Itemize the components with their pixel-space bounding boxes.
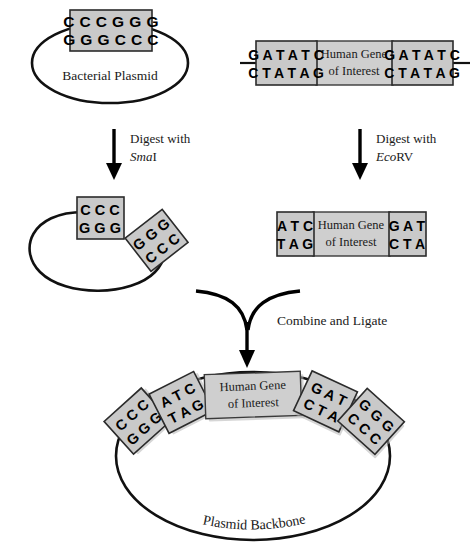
ligated-gene-label-line1: Human Gene	[219, 378, 286, 394]
left-enzyme-roman-part: I	[152, 149, 156, 164]
recombinant-plasmid-group: C C C G G G A T C T A G Human Gene of In…	[104, 370, 406, 540]
bacterial-plasmid-group: C C C G G G G G G C C C Bacterial Plasmi…	[32, 10, 188, 103]
cut-gene-right-bottom-strand: C T A	[389, 236, 425, 252]
left-enzyme-italic-part: Sma	[130, 149, 153, 164]
ligated-gene-label-line2: of Interest	[228, 395, 280, 411]
combine-ligate-label: Combine and Ligate	[277, 313, 387, 328]
ecorv-right-bottom-strand: C T A T A G	[384, 65, 460, 81]
smai-attached-top-strand: C C C	[80, 202, 120, 218]
combine-ligate-arrow-group: Combine and Ligate	[196, 291, 387, 368]
ecorv-left-bottom-strand: C T A T A G	[248, 65, 324, 81]
left-digest-label-line1: Digest with	[130, 131, 191, 146]
ligated-segment-gene-of-interest: Human Gene of Interest	[204, 371, 305, 421]
human-gene-construct-group: Human Gene of Interest G A T A T C C T A…	[240, 41, 470, 85]
smai-attached-bottom-strand: G G G	[79, 220, 121, 236]
plasmid-backbone-label-path: Plasmid Backbone	[202, 511, 307, 532]
left-digest-arrowhead-icon	[106, 163, 122, 180]
combine-arrowhead-icon	[239, 350, 255, 368]
right-enzyme-italic-part: Eco	[375, 149, 397, 164]
right-digest-arrow-group: Digest with EcoRV	[352, 129, 437, 180]
cut-plasmid-group: C C C G G G G G G C C C	[30, 197, 188, 291]
right-digest-enzyme-label: EcoRV	[375, 149, 414, 164]
cut-gene-left-bottom-strand: T A G	[277, 236, 313, 252]
combine-arrow-left-branch-icon	[196, 291, 247, 330]
cut-gene-group: Human Gene of Interest A T C T A G G A T…	[277, 212, 426, 256]
gene-label-line2: of Interest	[328, 64, 380, 78]
cut-gene-left-top-strand: A T C	[277, 218, 313, 234]
left-digest-enzyme-label: SmaI	[130, 149, 157, 164]
cut-gene-label-line2: of Interest	[325, 235, 377, 249]
cut-gene-right-top-strand: G A T	[389, 218, 426, 234]
bacterial-plasmid-label: Bacterial Plasmid	[62, 68, 158, 83]
plasmid-site-bottom-strand: G G G C C C	[63, 31, 159, 48]
left-digest-arrow-group: Digest with SmaI	[106, 129, 191, 180]
right-digest-arrowhead-icon	[352, 163, 368, 180]
gene-label-line1: Human Gene	[321, 47, 388, 61]
cloning-diagram: C C C G G G G G G C C C Bacterial Plasmi…	[0, 0, 473, 553]
plasmid-site-top-strand: C C C G G G	[63, 13, 159, 30]
ecorv-left-top-strand: G A T A T C	[248, 47, 324, 63]
cut-gene-label-line1: Human Gene	[318, 218, 385, 232]
right-enzyme-roman-part: RV	[396, 149, 414, 164]
smai-fragment-free-group: G G G C C C	[125, 209, 188, 271]
ecorv-right-top-strand: G A T A T C	[384, 47, 460, 63]
right-digest-label-line1: Digest with	[376, 131, 437, 146]
plasmid-backbone-label: Plasmid Backbone	[202, 511, 307, 532]
